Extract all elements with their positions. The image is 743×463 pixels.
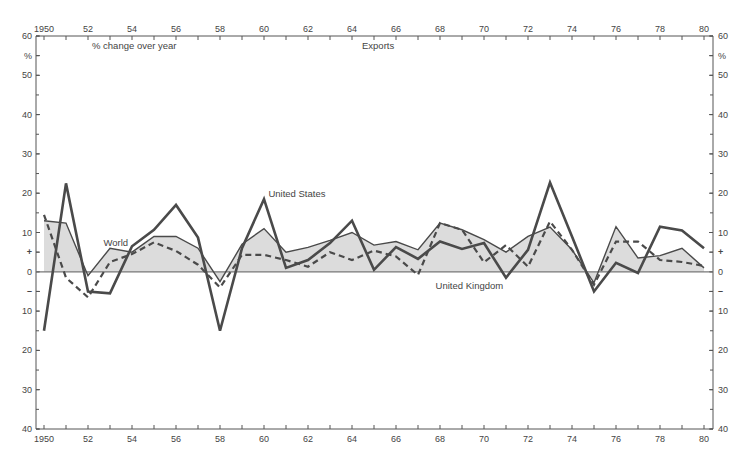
y-tick-label-left: 0 bbox=[27, 267, 32, 277]
y-tick-label-right: 40 bbox=[718, 110, 728, 120]
y-tick-label-right: % bbox=[718, 51, 726, 61]
x-tick-label-top: 72 bbox=[523, 24, 533, 34]
exports-chart: 1950525456586062646668707274767880195052… bbox=[0, 0, 743, 463]
y-tick-label-left: + bbox=[27, 247, 32, 257]
x-tick-label-bottom: 60 bbox=[259, 434, 269, 444]
y-tick-label-right: 0 bbox=[718, 267, 723, 277]
chart-subtitle: % change over year bbox=[92, 40, 177, 51]
x-tick-label-bottom: 64 bbox=[347, 434, 357, 444]
x-tick-label-top: 78 bbox=[655, 24, 665, 34]
y-tick-label-right: 20 bbox=[718, 345, 728, 355]
x-tick-label-top: 66 bbox=[391, 24, 401, 34]
axes: 1950525456586062646668707274767880195052… bbox=[22, 24, 728, 444]
x-tick-label-top: 76 bbox=[611, 24, 621, 34]
y-tick-label-left: 40 bbox=[22, 424, 32, 434]
x-tick-label-top: 74 bbox=[567, 24, 577, 34]
x-tick-label-top: 60 bbox=[259, 24, 269, 34]
x-tick-label-top: 68 bbox=[435, 24, 445, 34]
x-tick-label-top: 70 bbox=[479, 24, 489, 34]
y-tick-label-left: 30 bbox=[22, 149, 32, 159]
chart-title: Exports bbox=[362, 40, 394, 51]
y-tick-label-left: – bbox=[27, 286, 32, 296]
y-tick-label-right: – bbox=[718, 286, 723, 296]
x-tick-label-bottom: 80 bbox=[699, 434, 709, 444]
x-tick-label-bottom: 1950 bbox=[34, 434, 54, 444]
annotation-united-kingdom: United Kingdom bbox=[436, 280, 504, 291]
x-tick-label-top: 1950 bbox=[34, 24, 54, 34]
x-tick-label-top: 56 bbox=[171, 24, 181, 34]
y-tick-label-right: 30 bbox=[718, 385, 728, 395]
x-tick-label-bottom: 54 bbox=[127, 434, 137, 444]
x-tick-label-top: 52 bbox=[83, 24, 93, 34]
y-tick-label-left: 20 bbox=[22, 345, 32, 355]
x-tick-label-bottom: 74 bbox=[567, 434, 577, 444]
y-tick-label-left: 50 bbox=[22, 70, 32, 80]
x-tick-label-bottom: 52 bbox=[83, 434, 93, 444]
x-tick-label-bottom: 76 bbox=[611, 434, 621, 444]
world-area-fill bbox=[44, 221, 704, 283]
annotation-world: World bbox=[103, 237, 128, 248]
x-tick-label-bottom: 70 bbox=[479, 434, 489, 444]
x-tick-label-bottom: 68 bbox=[435, 434, 445, 444]
y-tick-label-right: 10 bbox=[718, 228, 728, 238]
x-tick-label-bottom: 58 bbox=[215, 434, 225, 444]
y-tick-label-left: 10 bbox=[22, 306, 32, 316]
x-tick-label-bottom: 56 bbox=[171, 434, 181, 444]
y-tick-label-left: 30 bbox=[22, 385, 32, 395]
y-tick-label-right: 40 bbox=[718, 424, 728, 434]
labels: % change over year Exports bbox=[92, 40, 394, 51]
x-tick-label-bottom: 62 bbox=[303, 434, 313, 444]
y-tick-label-right: 20 bbox=[718, 188, 728, 198]
y-tick-label-left: 20 bbox=[22, 188, 32, 198]
y-tick-label-left: 10 bbox=[22, 228, 32, 238]
x-tick-label-top: 62 bbox=[303, 24, 313, 34]
x-tick-label-bottom: 66 bbox=[391, 434, 401, 444]
annotation-united-states: United States bbox=[268, 188, 325, 199]
x-tick-label-top: 54 bbox=[127, 24, 137, 34]
y-tick-label-left: % bbox=[24, 51, 32, 61]
y-tick-label-right: 30 bbox=[718, 149, 728, 159]
y-tick-label-right: 50 bbox=[718, 70, 728, 80]
x-tick-label-bottom: 72 bbox=[523, 434, 533, 444]
y-tick-label-left: 40 bbox=[22, 110, 32, 120]
y-tick-label-right: + bbox=[718, 247, 723, 257]
world-shaded-area bbox=[44, 221, 704, 283]
y-tick-label-left: 60 bbox=[22, 31, 32, 41]
x-tick-label-top: 64 bbox=[347, 24, 357, 34]
y-tick-label-right: 60 bbox=[718, 31, 728, 41]
x-tick-label-top: 80 bbox=[699, 24, 709, 34]
x-tick-label-top: 58 bbox=[215, 24, 225, 34]
y-tick-label-right: 10 bbox=[718, 306, 728, 316]
x-tick-label-bottom: 78 bbox=[655, 434, 665, 444]
